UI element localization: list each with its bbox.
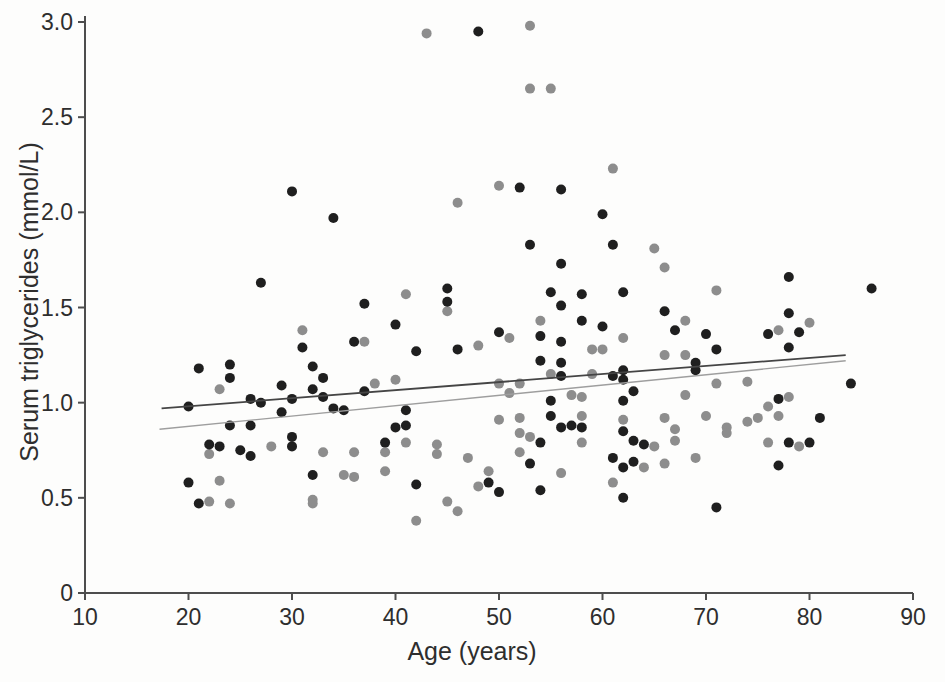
data-point-gray-dots [494, 379, 504, 389]
data-point-dark-dots [204, 440, 214, 450]
data-point-gray-dots [525, 84, 535, 94]
data-point-dark-dots [556, 185, 566, 195]
data-point-dark-dots [567, 421, 577, 431]
data-point-dark-dots [701, 329, 711, 339]
data-point-gray-dots [391, 375, 401, 385]
y-tick-label: 1.0 [41, 390, 73, 416]
data-point-dark-dots [194, 499, 204, 509]
data-point-dark-dots [535, 438, 545, 448]
data-point-gray-dots [794, 441, 804, 451]
data-point-gray-dots [401, 438, 411, 448]
data-point-dark-dots [546, 411, 556, 421]
data-point-dark-dots [235, 445, 245, 455]
data-point-dark-dots [618, 365, 628, 375]
data-point-dark-dots [256, 278, 266, 288]
y-tick-label: 0.5 [41, 485, 73, 511]
data-point-gray-dots [463, 453, 473, 463]
data-point-gray-dots [225, 499, 235, 509]
data-point-dark-dots [328, 213, 338, 223]
data-point-gray-dots [442, 497, 452, 507]
data-point-gray-dots [515, 413, 525, 423]
data-point-gray-dots [618, 415, 628, 425]
data-point-dark-dots [391, 422, 401, 432]
data-point-gray-dots [432, 440, 442, 450]
data-point-gray-dots [504, 333, 514, 343]
data-point-gray-dots [649, 244, 659, 254]
data-point-dark-dots [401, 405, 411, 415]
data-point-gray-dots [670, 424, 680, 434]
data-point-gray-dots [453, 198, 463, 208]
data-point-gray-dots [308, 499, 318, 509]
data-point-gray-dots [660, 459, 670, 469]
data-point-dark-dots [349, 337, 359, 347]
data-point-dark-dots [287, 441, 297, 451]
data-point-dark-dots [535, 485, 545, 495]
data-point-gray-dots [742, 417, 752, 427]
data-point-dark-dots [556, 301, 566, 311]
data-point-dark-dots [225, 360, 235, 370]
data-point-dark-dots [525, 459, 535, 469]
data-point-gray-dots [215, 384, 225, 394]
x-axis-title: Age (years) [407, 637, 536, 665]
data-point-gray-dots [701, 411, 711, 421]
data-point-dark-dots [194, 363, 204, 373]
data-point-gray-dots [774, 411, 784, 421]
data-point-gray-dots [598, 344, 608, 354]
data-point-gray-dots [649, 441, 659, 451]
data-point-dark-dots [525, 240, 535, 250]
x-tick-label: 50 [486, 604, 512, 630]
axis-tick-labels: 10203040506070809000.51.01.52.02.53.0 [41, 9, 926, 630]
data-point-dark-dots [256, 398, 266, 408]
data-point-gray-dots [680, 390, 690, 400]
data-point-dark-dots [784, 343, 794, 353]
data-point-gray-dots [349, 447, 359, 457]
data-point-gray-dots [618, 333, 628, 343]
data-point-dark-dots [246, 421, 256, 431]
data-point-dark-dots [577, 316, 587, 326]
data-point-gray-dots [670, 436, 680, 446]
data-point-gray-dots [380, 447, 390, 457]
data-point-gray-dots [680, 350, 690, 360]
data-point-gray-dots [608, 478, 618, 488]
data-point-dark-dots [556, 371, 566, 381]
data-point-gray-dots [763, 402, 773, 412]
y-tick-label: 2.0 [41, 199, 73, 225]
data-point-dark-dots [411, 480, 421, 490]
gray-series-points [204, 21, 814, 526]
x-tick-label: 90 [900, 604, 926, 630]
data-point-gray-dots [805, 318, 815, 328]
data-point-dark-dots [494, 327, 504, 337]
data-point-gray-dots [660, 350, 670, 360]
data-point-gray-dots [784, 392, 794, 402]
data-point-dark-dots [473, 27, 483, 37]
data-point-dark-dots [246, 451, 256, 461]
data-point-gray-dots [204, 497, 214, 507]
data-point-gray-dots [608, 164, 618, 174]
data-point-dark-dots [287, 432, 297, 442]
data-point-dark-dots [867, 284, 877, 294]
data-point-gray-dots [515, 447, 525, 457]
data-point-gray-dots [266, 441, 276, 451]
data-point-dark-dots [577, 289, 587, 299]
x-tick-label: 40 [383, 604, 409, 630]
x-tick-label: 60 [590, 604, 616, 630]
data-point-gray-dots [577, 411, 587, 421]
data-point-dark-dots [618, 426, 628, 436]
data-point-gray-dots [359, 337, 369, 347]
data-point-dark-dots [618, 462, 628, 472]
data-point-gray-dots [763, 438, 773, 448]
data-point-dark-dots [608, 240, 618, 250]
data-point-gray-dots [473, 341, 483, 351]
data-point-dark-dots [225, 373, 235, 383]
data-point-gray-dots [473, 481, 483, 491]
data-point-gray-dots [453, 506, 463, 516]
y-axis-title: Serum triglycerides (mmol/L) [15, 142, 43, 462]
x-tick-label: 20 [176, 604, 202, 630]
data-point-gray-dots [215, 476, 225, 486]
data-point-gray-dots [422, 28, 432, 38]
data-point-dark-dots [629, 457, 639, 467]
x-tick-label: 70 [693, 604, 719, 630]
data-point-gray-dots [297, 325, 307, 335]
data-point-dark-dots [794, 327, 804, 337]
data-point-dark-dots [359, 386, 369, 396]
